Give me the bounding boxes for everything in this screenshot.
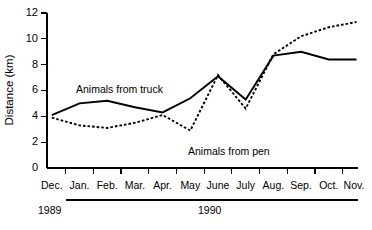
x-tick-label-apr: Apr. [153, 179, 172, 191]
series-animals-from-pen [52, 22, 357, 131]
year-grouping: 1989 1990 [38, 200, 358, 216]
chart-figure: Distance (km) 12 10 8 6 4 2 0 [0, 0, 372, 230]
x-axis-ticks [66, 168, 343, 174]
y-axis-ticks: 12 10 8 6 4 2 0 [26, 6, 47, 173]
y-tick-label-2: 2 [32, 135, 38, 147]
y-tick-label-6: 6 [32, 83, 38, 95]
x-tick-label-feb: Feb. [97, 179, 118, 191]
y-tick-label-12: 12 [26, 6, 38, 18]
line-chart: Distance (km) 12 10 8 6 4 2 0 [0, 0, 372, 230]
y-axis-title: Distance (km) [3, 54, 15, 125]
x-tick-label-july: July [236, 179, 255, 191]
year-label-1990: 1990 [198, 204, 222, 216]
x-tick-label-june: June [207, 179, 230, 191]
x-tick-label-jan: Jan. [70, 179, 90, 191]
year-label-1989: 1989 [38, 204, 62, 216]
series-group [52, 22, 357, 131]
x-tick-label-sep: Sep. [290, 179, 312, 191]
x-tick-label-mar: Mar. [125, 179, 145, 191]
x-tick-label-dec: Dec. [41, 179, 63, 191]
x-tick-label-aug: Aug. [263, 179, 285, 191]
x-axis-labels: Dec. Jan. Feb. Mar. Apr. May June July A… [41, 179, 364, 191]
x-tick-label-oct: Oct. [319, 179, 338, 191]
annotation-animals-from-truck: Animals from truck [76, 83, 164, 95]
y-tick-label-4: 4 [32, 109, 38, 121]
y-tick-label-8: 8 [32, 58, 38, 70]
x-tick-label-nov: Nov. [344, 179, 365, 191]
y-tick-label-10: 10 [26, 32, 38, 44]
annotation-animals-from-pen: Animals from pen [188, 145, 270, 157]
y-tick-label-0: 0 [32, 161, 38, 173]
x-tick-label-may: May [180, 179, 201, 191]
